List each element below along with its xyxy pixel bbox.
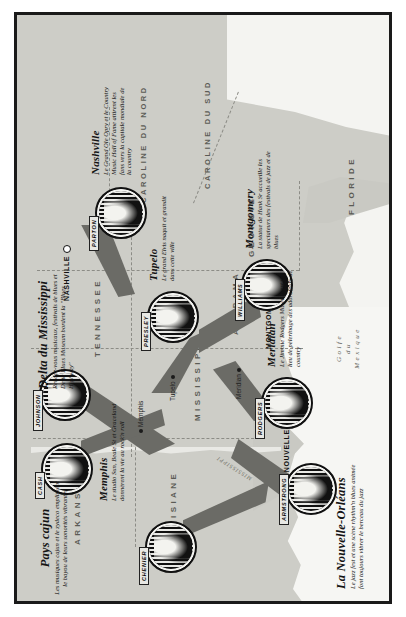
medallion-ring (149, 293, 197, 341)
callout-title: Pays cajun (39, 479, 52, 597)
map-page: MISSISSIPPI LOUISIANE ARKANSAS MISSISSIP… (14, 12, 392, 604)
callout-tupelo: Tupelo Le grand Elvis naquit et grandit … (147, 189, 176, 281)
nametag-williams: WILLIAMS (235, 279, 245, 321)
map-frame: MISSISSIPPI LOUISIANE ARKANSAS MISSISSIP… (0, 0, 406, 617)
callout-title: Memphis (97, 387, 109, 501)
nametag-rodgers: RODGERS (255, 398, 265, 439)
callout-body: La statue de Hank Sr accueille les spect… (256, 151, 279, 249)
callout-title: Nashville (89, 87, 101, 175)
nametag-armstrong: ARMSTRONG (279, 474, 289, 525)
city-meridian[interactable]: Meridian (235, 366, 242, 399)
state-label-tennessee: TENNESSEE (93, 278, 102, 357)
callout-meridian: Meridian Le Jimmie Rodgers Museum est un… (265, 267, 301, 367)
border-ar-la (135, 437, 136, 547)
callout-body: Le Jimmie Rodgers Museum est un lieu de … (278, 267, 301, 367)
callout-montgomery: Montgomery La statue de Hank Sr accueill… (243, 151, 279, 249)
callout-title: La Nouvelle-Orléans (335, 457, 348, 589)
map-canvas: MISSISSIPPI LOUISIANE ARKANSAS MISSISSIP… (17, 15, 392, 604)
callout-body: Le Grand Ole Opry et le Country Music Ha… (102, 87, 133, 175)
callout-title: Delta du Mississippi (37, 261, 50, 389)
city-dot (171, 375, 175, 379)
border-nc-sc (193, 92, 239, 204)
callout-la-nouvelle-orleans: La Nouvelle-Orléans Le jazz fest et une … (335, 457, 365, 589)
nametag-johnson: JOHNSON (33, 390, 43, 431)
city-dot (139, 429, 143, 433)
city-memphis[interactable]: Memphis (137, 401, 144, 435)
medallion-ring (147, 523, 195, 571)
city-tupelo[interactable]: Tupelo (169, 373, 176, 401)
callout-delta-du-mississippi: Delta du Mississippi Rendez-vous musicau… (37, 261, 74, 389)
city-label: Tupelo (169, 381, 176, 401)
gulf-of-mexico-label: Golfe du Mexique (335, 303, 362, 393)
portrait-medallion-parton[interactable] (95, 187, 147, 239)
portrait-medallion-armstrong[interactable] (285, 463, 337, 515)
callout-body: Le jazz fest et une scène rhythm'n blues… (349, 457, 365, 589)
portrait-medallion-presley[interactable] (147, 291, 199, 343)
nametag-parton: PARTON (89, 216, 99, 251)
state-label-caroline-du-sud: CAROLINE DU SUD (203, 80, 212, 189)
state-label-floride: FLORIDE (347, 156, 356, 215)
callout-pays-cajun: Pays cajun Les musiques cajun et le zyde… (39, 479, 69, 597)
callout-nashville: Nashville Le Grand Ole Opry et le Countr… (89, 87, 133, 175)
border-ga-fl (299, 181, 300, 271)
nametag-presley: PRESLEY (141, 312, 151, 351)
callout-body: Le studio Sun, Beale St et Graceland don… (110, 387, 126, 501)
callout-body: Les musiques cajun et le zydeco emplisse… (53, 479, 69, 597)
medallion-ring (287, 465, 335, 513)
city-label: Memphis (137, 401, 144, 427)
portrait-medallion-rodgers[interactable] (261, 377, 313, 429)
callout-title: Meridian (265, 267, 277, 367)
callout-title: Montgomery (243, 151, 255, 249)
callout-title: Tupelo (147, 189, 159, 281)
portrait-medallion-chenier[interactable] (145, 521, 197, 573)
capital-dot (63, 245, 71, 253)
city-label: Meridian (235, 374, 242, 399)
callout-body: Rendez-vous musicaux, festivals de blues… (51, 261, 74, 389)
city-dot (237, 368, 241, 372)
medallion-ring (97, 189, 145, 237)
callout-body: Le grand Elvis naquit et grandit dans ce… (160, 189, 176, 281)
callout-memphis: Memphis Le studio Sun, Beale St et Grace… (97, 387, 126, 501)
medallion-ring (263, 379, 311, 427)
state-label-caroline-du-nord: CAROLINE DU NORD (139, 85, 148, 203)
atlantic-water (227, 12, 392, 137)
nametag-chenier: CHENIER (139, 547, 149, 585)
